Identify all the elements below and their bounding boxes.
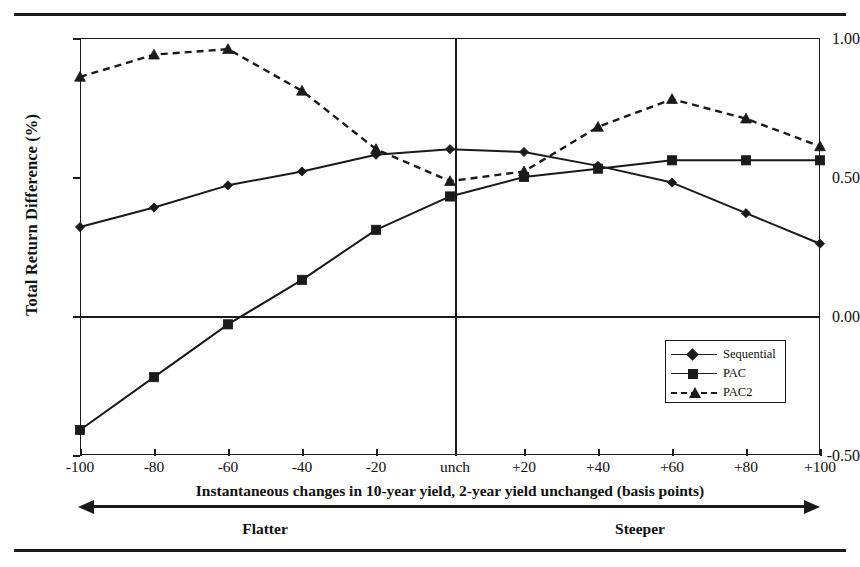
x-tick-label-6: unch [420, 459, 490, 475]
x-tick-mark-3 [228, 449, 230, 456]
arrow-shaft [84, 505, 814, 508]
y-tick-mark-4 [73, 455, 80, 457]
figure-container: Total Return Difference (%) 1.00 0.50 0.… [0, 0, 860, 567]
y-tick-mark-3 [73, 316, 80, 318]
legend: Sequential PAC PAC2 [665, 340, 786, 403]
x-tick-label-5: -20 [341, 459, 411, 475]
y-axis-label: Total Return Difference (%) [22, 85, 42, 345]
x-tick-mark-6 [455, 449, 457, 456]
x-tick-mark-9 [672, 449, 674, 456]
x-tick-mark-10 [746, 449, 748, 456]
legend-label-pac: PAC [717, 366, 746, 381]
triangle-marker-icon [689, 387, 701, 398]
x-tick-mark-5 [376, 449, 378, 456]
x-tick-label-8: +40 [563, 459, 633, 475]
legend-item-pac2[interactable]: PAC2 [671, 383, 780, 402]
zero-reference-line [80, 316, 820, 318]
legend-swatch-pac2 [671, 386, 717, 400]
x-tick-mark-4 [302, 449, 304, 456]
x-tick-mark-8 [598, 449, 600, 456]
x-tick-mark-11 [820, 449, 822, 456]
x-tick-label-2: -80 [119, 459, 189, 475]
arrow-right-icon [804, 500, 820, 514]
legend-label-sequential: Sequential [717, 347, 776, 362]
legend-item-pac[interactable]: PAC [671, 364, 780, 383]
legend-label-pac2: PAC2 [717, 385, 752, 400]
x-tick-mark-7 [524, 449, 526, 456]
top-horizontal-rule [14, 13, 846, 16]
x-tick-label-3: -60 [193, 459, 263, 475]
x-tick-label-7: +20 [489, 459, 559, 475]
x-tick-label-10: +80 [711, 459, 781, 475]
x-tick-label-1: -100 [45, 459, 115, 475]
x-tick-label-11: +100 [785, 459, 855, 475]
unch-reference-line [455, 38, 457, 455]
x-tick-mark-2 [154, 449, 156, 456]
y-tick-mark-2 [73, 177, 80, 179]
legend-item-sequential[interactable]: Sequential [671, 345, 780, 364]
x-tick-mark-1 [80, 449, 82, 456]
direction-arrow [78, 500, 820, 514]
direction-label-flatter: Flatter [80, 520, 450, 538]
bottom-horizontal-rule [14, 549, 846, 552]
x-tick-label-4: -40 [267, 459, 337, 475]
square-marker-icon [688, 369, 698, 379]
legend-swatch-pac [671, 367, 717, 381]
x-axis-caption: Instantaneous changes in 10-year yield, … [80, 482, 820, 500]
diamond-marker-icon [686, 348, 699, 361]
direction-label-steeper: Steeper [460, 520, 820, 538]
y-tick-mark-1 [73, 38, 80, 40]
x-tick-label-9: +60 [637, 459, 707, 475]
legend-swatch-sequential [671, 348, 717, 362]
arrow-left-icon [78, 500, 94, 514]
